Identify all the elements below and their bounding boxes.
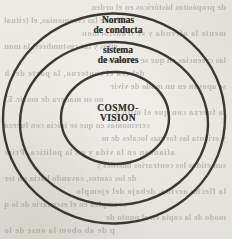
concentric-circles-diagram: [0, 0, 232, 239]
scanned-page: de propósitos históricos en el orden ció…: [0, 0, 232, 239]
middle-ring-sistema-de-valores: [19, 40, 210, 206]
inner-ring-cosmovision: [61, 72, 169, 164]
outer-ring-normas-de-conducta: [1, 12, 227, 226]
